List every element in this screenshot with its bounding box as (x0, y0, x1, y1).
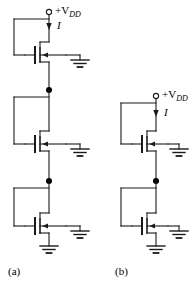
current-arrow-b1-icon (153, 110, 158, 117)
panel-a-stage-2 (14, 87, 89, 181)
supply-label-a-sub: DD (69, 10, 81, 19)
ground-a2-icon (66, 144, 89, 156)
supply-label-b: +VDD (162, 89, 188, 103)
panel-b-caption: (b) (115, 266, 128, 277)
panel-a-stage-1 (14, 9, 89, 90)
ground-a3-source-icon (40, 246, 58, 253)
circuit-figure: +VDD I +VDD I (a) (b) (0, 0, 194, 284)
current-label-b: I (164, 107, 168, 118)
mosfet-b2-arrow-icon (150, 223, 156, 228)
ground-b2-source-icon (147, 246, 165, 253)
current-arrow-a1-icon (46, 23, 51, 30)
mosfet-a2-arrow-icon (43, 141, 49, 146)
supply-label-b-sub: DD (176, 94, 188, 103)
mosfet-a1-arrow-icon (43, 52, 49, 57)
supply-terminal-b1-icon (153, 93, 158, 98)
supply-label-a-plain: +V (55, 4, 69, 16)
panel-a-stage-3 (14, 178, 89, 253)
ground-a3-bulk-icon (66, 226, 89, 238)
supply-terminal-a1-icon (46, 9, 51, 14)
panel-a-caption: (a) (8, 266, 20, 277)
ground-b1-icon (168, 144, 188, 156)
supply-label-a: +VDD (55, 5, 81, 19)
circuit-schematic-canvas (0, 0, 194, 284)
mosfet-b1-arrow-icon (150, 141, 156, 146)
ground-a1-icon (66, 55, 89, 67)
ground-b2-bulk-icon (168, 226, 188, 238)
panel-b-stage-2 (121, 178, 188, 253)
supply-label-b-plain: +V (162, 88, 176, 100)
current-label-a: I (57, 20, 61, 31)
mosfet-a3-arrow-icon (43, 223, 49, 228)
panel-b-stage-1 (121, 93, 188, 181)
